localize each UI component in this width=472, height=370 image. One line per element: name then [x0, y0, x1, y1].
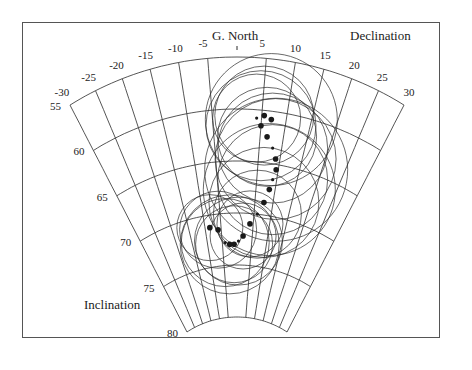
declination-tick-label: 15 — [320, 50, 331, 61]
data-point — [264, 134, 270, 140]
data-point — [231, 241, 237, 247]
data-point — [271, 146, 274, 149]
declination-tick-label: -10 — [168, 43, 183, 54]
declination-line — [179, 63, 220, 319]
inclination-arc — [187, 317, 287, 332]
polar-fan-plot — [0, 0, 472, 370]
data-point — [273, 167, 279, 173]
declination-tick-label: 25 — [377, 72, 388, 83]
north-label: G. North — [212, 29, 258, 42]
data-point — [247, 221, 253, 227]
declination-line — [246, 58, 266, 317]
data-point — [261, 113, 267, 119]
declination-line — [255, 63, 296, 319]
declination-tick-label: -15 — [138, 50, 153, 61]
grid-lines — [70, 57, 404, 332]
data-point — [215, 227, 221, 233]
inclination-tick-label: 55 — [50, 101, 61, 112]
confidence-circles — [177, 54, 348, 294]
inclination-tick-label: 60 — [73, 146, 84, 157]
data-point — [258, 123, 264, 129]
inclination-tick-label: 75 — [144, 283, 155, 294]
data-point — [240, 233, 246, 239]
declination-tick-label: -30 — [55, 87, 70, 98]
inclination-tick-label: 80 — [167, 328, 178, 339]
declination-tick-label: 30 — [403, 87, 414, 98]
inclination-axis-label: Inclination — [84, 298, 140, 311]
data-point — [267, 187, 273, 193]
inclination-arc — [117, 161, 357, 196]
data-point — [271, 178, 274, 181]
data-point — [224, 241, 227, 244]
declination-axis-label: Declination — [350, 29, 411, 42]
declination-tick-label: -5 — [198, 38, 207, 49]
inclination-arc — [140, 213, 334, 241]
inclination-tick-label: 70 — [120, 237, 131, 248]
data-point — [207, 225, 213, 231]
declination-tick-label: -20 — [109, 60, 124, 71]
declination-tick-label: -25 — [81, 72, 96, 83]
data-point — [269, 117, 275, 123]
declination-tick-label: 5 — [260, 38, 266, 49]
declination-line — [263, 69, 324, 320]
declination-tick-label: 20 — [349, 60, 360, 71]
data-point — [261, 200, 267, 206]
declination-line — [287, 105, 404, 332]
declination-tick-label: 10 — [290, 43, 301, 54]
data-point — [256, 213, 259, 216]
data-point — [273, 156, 279, 162]
data-point — [255, 116, 258, 119]
declination-line — [279, 91, 378, 328]
inclination-tick-label: 65 — [97, 192, 108, 203]
data-point — [237, 239, 240, 242]
